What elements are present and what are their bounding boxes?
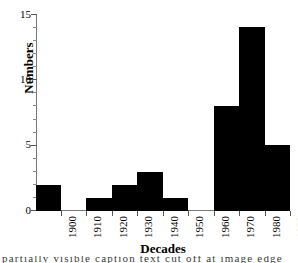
clipped-caption: partially visible caption text cut off a… xyxy=(0,256,298,263)
x-axis-title: Decades xyxy=(36,241,290,257)
x-tick-label-1990: 1990 xyxy=(296,216,298,256)
x-axis-tick-labels: 1900 1910 1920 1930 1940 1950 1960 1970 … xyxy=(0,0,298,263)
histogram-figure: Numbers 15 10 5 0 xyxy=(0,0,298,263)
clipped-caption-text: partially visible caption text cut off a… xyxy=(0,256,298,263)
